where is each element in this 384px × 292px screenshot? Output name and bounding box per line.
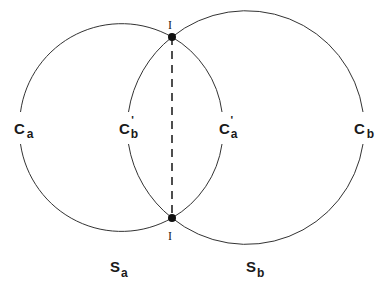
circle-s-a-arc-right <box>172 37 222 112</box>
circle-s-a <box>21 24 173 112</box>
label-s-b: Sb <box>246 258 264 280</box>
label-s-a: Sa <box>110 258 128 280</box>
circle-s-a-arc-right-lower <box>172 144 222 218</box>
label-c-b: Cb <box>354 120 374 141</box>
circle-s-b <box>129 37 173 112</box>
two-circles-diagram: I I Ca Cb' Ca' Cb Sa Sb <box>0 0 384 292</box>
intersection-dot-bottom <box>168 214 176 222</box>
label-c-a: Ca <box>14 120 34 141</box>
circle-s-b-arc-left-lower <box>129 144 173 218</box>
label-i-top: I <box>168 18 172 32</box>
label-i-bottom: I <box>168 229 172 243</box>
circle-s-a-arc-bottom <box>21 144 173 231</box>
label-c-a-prime: Ca' <box>219 114 238 141</box>
intersection-dot-top <box>168 33 176 41</box>
label-c-b-prime: Cb' <box>119 114 138 141</box>
